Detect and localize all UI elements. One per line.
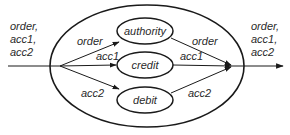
node-authority-label: authority xyxy=(124,25,168,37)
node-credit-label: credit xyxy=(132,59,160,71)
edge-out-acc1-label: acc1 xyxy=(180,50,203,62)
process-diagram: authority credit debit order, acc1, acc2… xyxy=(0,0,290,135)
output-label-line2: acc1, xyxy=(251,33,277,45)
output-label-line1: order, xyxy=(251,20,279,32)
node-debit-label: debit xyxy=(133,94,158,106)
input-label-line1: order, xyxy=(10,20,38,32)
edge-in-acc2-label: acc2 xyxy=(81,87,104,99)
edge-in-order-label: order xyxy=(77,35,104,47)
edge-out-order-label: order xyxy=(192,35,219,47)
input-label-line3: acc2 xyxy=(10,46,33,58)
edge-in-acc2 xyxy=(60,66,119,89)
node-credit[interactable]: credit xyxy=(117,52,173,78)
output-label-line3: acc2 xyxy=(251,46,274,58)
edge-in-acc1-label: acc1 xyxy=(96,50,119,62)
node-debit[interactable]: debit xyxy=(117,87,173,113)
edge-in-acc1 xyxy=(60,65,116,66)
edge-out-acc1 xyxy=(173,65,231,66)
edge-out-acc2-label: acc2 xyxy=(188,87,211,99)
input-label-line2: acc1, xyxy=(10,33,36,45)
node-authority[interactable]: authority xyxy=(117,18,173,44)
